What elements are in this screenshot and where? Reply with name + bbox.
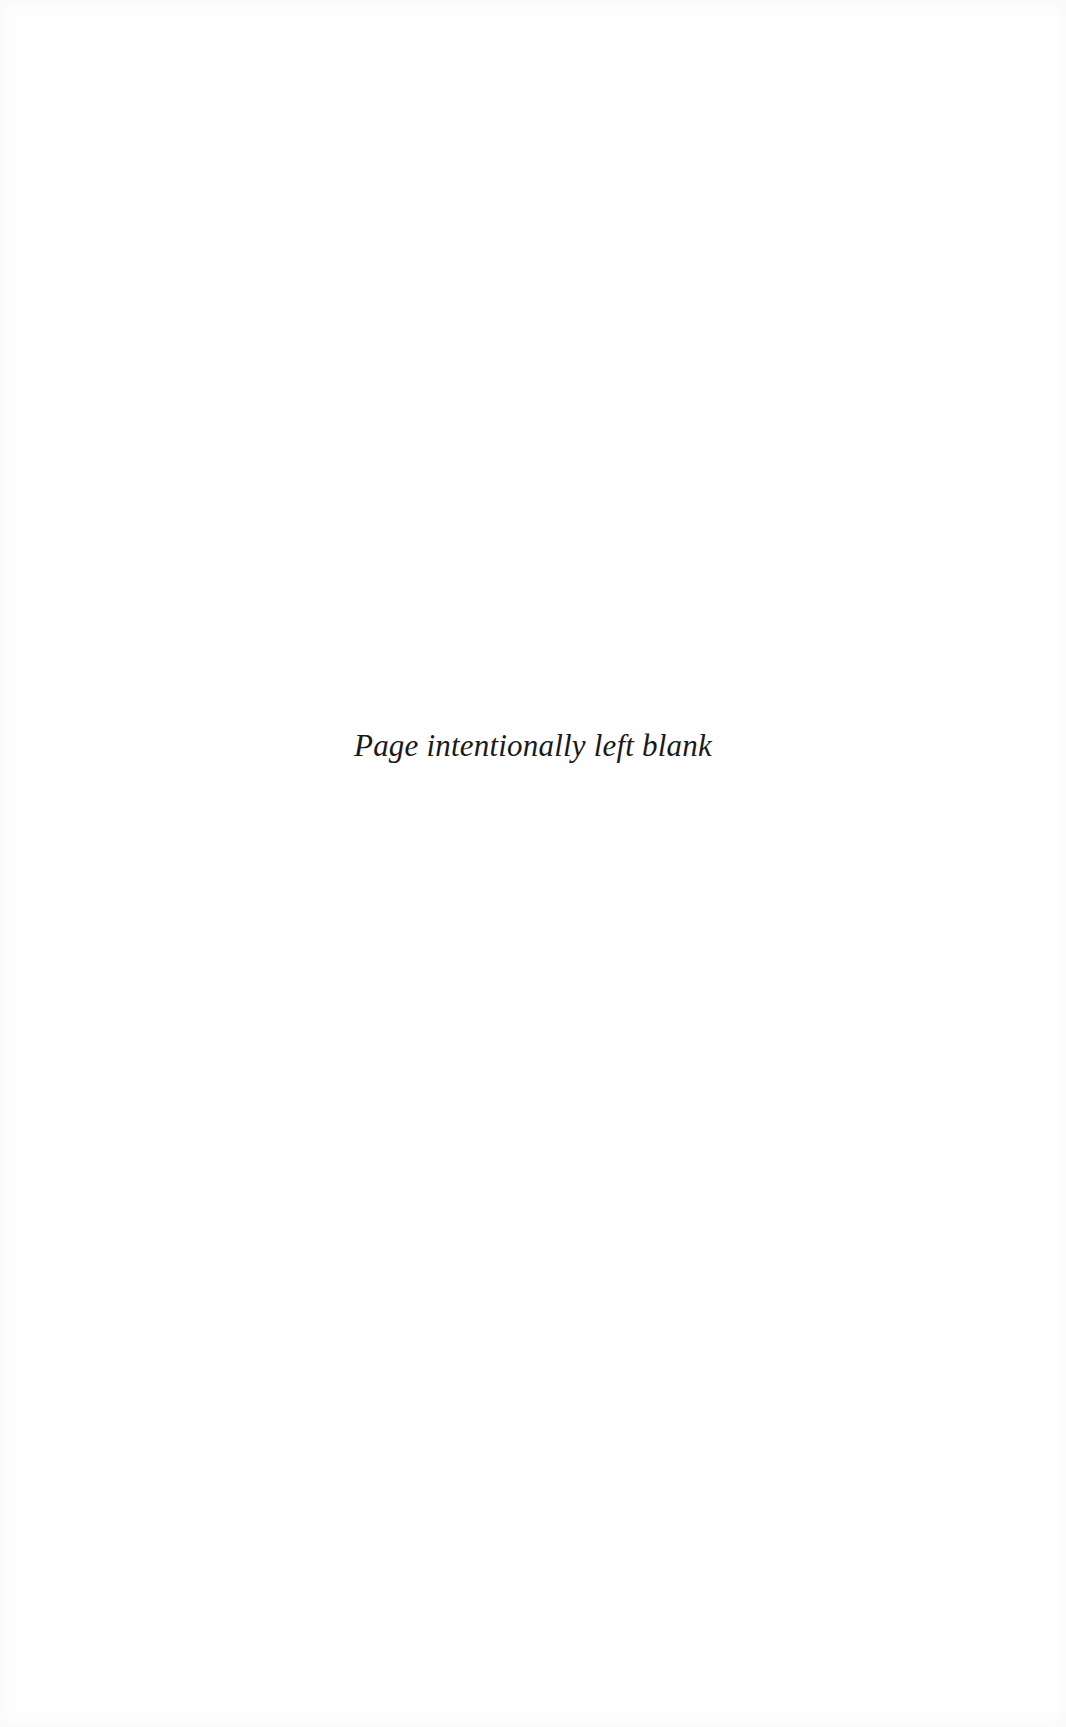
blank-page-notice: Page intentionally left blank <box>0 728 1066 764</box>
blank-page: Page intentionally left blank <box>0 0 1066 1727</box>
